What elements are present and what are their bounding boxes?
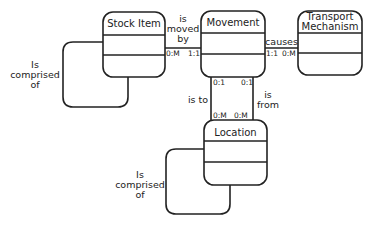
rel-label-is-to: is to xyxy=(186,95,210,105)
card-location-to-from: 0:1 xyxy=(213,79,225,87)
rel-label-stock-self-3: of xyxy=(10,80,60,90)
entity-title-transport-line2: Mechanism xyxy=(298,22,362,32)
card-movement-transport-from: 1:1 xyxy=(266,50,278,58)
card-location-from-to: 0:M xyxy=(234,112,248,120)
card-location-to-to: 0:M xyxy=(213,112,227,120)
rel-label-location-self-3: of xyxy=(115,190,165,200)
entity-title-stock-item: Stock Item xyxy=(103,19,165,29)
card-stock-movement-to: 1:1 xyxy=(188,50,200,58)
entity-title-movement: Movement xyxy=(201,18,265,28)
rel-label-is-from-2: from xyxy=(255,100,281,110)
rel-label-causes: causes xyxy=(265,37,298,47)
rel-label-moved-3: by xyxy=(166,34,200,44)
card-movement-transport-to: 0:M xyxy=(282,50,296,58)
entity-title-location: Location xyxy=(204,128,267,138)
card-stock-movement-from: 0:M xyxy=(166,50,180,58)
card-location-from-from: 0:1 xyxy=(241,79,253,87)
